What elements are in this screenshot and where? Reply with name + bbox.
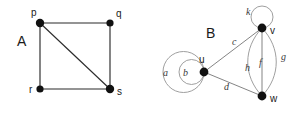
vertex-u [200,68,209,77]
figure-canvas: p q r s A u [0,0,300,113]
edge-label-c: c [232,36,237,47]
vertex-label-v: v [270,25,275,36]
edge-label-a: a [163,67,168,78]
vertex-p [36,19,44,27]
edge-label-h: h [245,62,250,73]
graph-caption-a: A [17,33,27,49]
vertex-r [36,85,43,92]
vertex-label-s: s [117,86,122,97]
vertex-w [258,92,267,101]
vertex-label-u: u [199,54,205,65]
vertex-q [106,19,113,26]
graph-a: p q r s A [17,7,122,97]
edge-p-s [40,23,110,89]
edge-label-b: b [183,67,188,78]
graph-caption-b: B [206,25,215,41]
vertex-label-r: r [29,84,33,95]
vertex-label-w: w [269,93,278,104]
edge-v-w-g [262,28,276,96]
vertex-label-p: p [31,7,37,18]
vertex-v [258,24,267,33]
vertex-label-q: q [116,8,122,19]
edge-label-k: k [246,6,251,17]
vertex-s [106,85,114,93]
edge-label-g: g [281,51,286,62]
graph-figure: p q r s A u [0,0,300,113]
graph-b: u v w a b c d f g h k B [163,6,286,104]
